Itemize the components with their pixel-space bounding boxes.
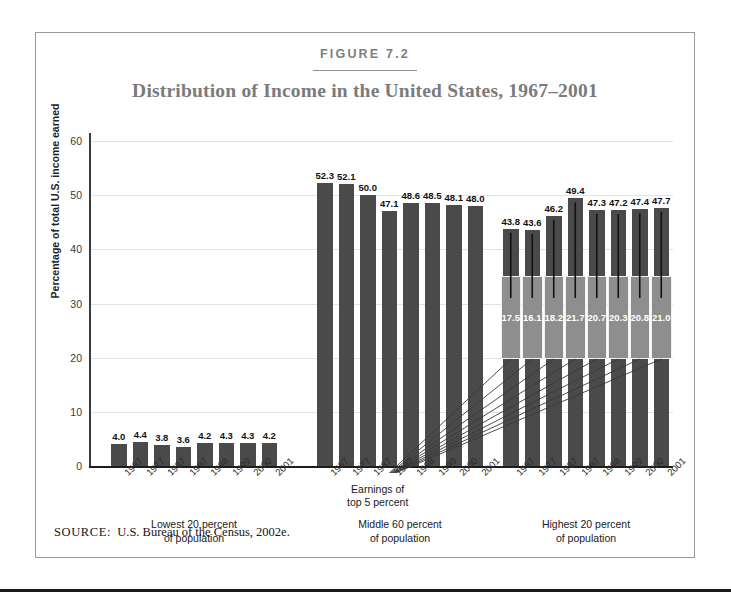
bar[interactable]: 48.0: [468, 206, 484, 466]
bar[interactable]: 48.1: [446, 205, 462, 466]
y-tick-60: 60: [70, 135, 82, 147]
y-tick-50: 50: [70, 189, 82, 201]
callout-line-2: top 5 percent: [347, 496, 408, 508]
chart-plot-area: 0102030405060 4.04.43.83.64.24.34.34.252…: [89, 133, 673, 473]
y-tick-20: 20: [70, 352, 82, 364]
y-axis-label: Percentage of total U.S. income earned: [49, 104, 61, 299]
top-five-percent-value: 20.8: [631, 312, 650, 323]
bar-value-label: 3.6: [177, 434, 190, 445]
gridline-60: [91, 141, 673, 142]
bar-value-label: 52.1: [337, 171, 356, 182]
bar-value-label: 4.2: [198, 430, 211, 441]
figure-title: Distribution of Income in the United Sta…: [36, 80, 694, 102]
figure-divider-rule: [313, 70, 417, 71]
y-axis-line: [89, 133, 91, 467]
top-five-percent-box[interactable]: 21.0: [651, 276, 672, 359]
bar-value-label: 48.6: [402, 190, 421, 201]
bar-value-label: 47.4: [631, 196, 650, 207]
top-five-percent-callout: Earnings of top 5 percent: [340, 480, 415, 512]
top-five-percent-box[interactable]: 16.1: [522, 276, 543, 359]
bar-value-label: 47.2: [609, 197, 628, 208]
top-five-percent-value: 16.1: [523, 312, 542, 323]
bar-value-label: 46.2: [545, 203, 564, 214]
callout-line-1: Earnings of: [351, 483, 404, 495]
bar-value-label: 4.4: [134, 429, 147, 440]
bar[interactable]: 50.0: [360, 195, 376, 466]
bar-value-label: 43.8: [502, 216, 521, 227]
top-five-percent-value: 20.3: [609, 312, 628, 323]
top-five-percent-box[interactable]: 18.2: [544, 276, 565, 359]
gridline-50: [91, 195, 673, 196]
source-note: SOURCE: U.S. Bureau of the Census, 2002e…: [54, 525, 290, 540]
top-five-percent-box[interactable]: 21.7: [565, 276, 586, 359]
top-five-percent-value: 21.0: [652, 312, 671, 323]
bar[interactable]: 48.5: [425, 203, 441, 466]
bar-value-label: 48.0: [466, 193, 485, 204]
top-five-percent-box[interactable]: 20.3: [608, 276, 629, 359]
y-tick-40: 40: [70, 243, 82, 255]
y-tick-0: 0: [76, 460, 82, 472]
group-label: Highest 20 percentof population: [542, 518, 630, 545]
bar-value-label: 47.1: [380, 198, 399, 209]
bar[interactable]: 47.1: [382, 211, 398, 466]
bar[interactable]: 52.1: [339, 184, 355, 466]
top-five-percent-value: 21.7: [566, 312, 585, 323]
figure-frame: FIGURE 7.2 Distribution of Income in the…: [35, 32, 695, 558]
bar-value-label: 49.4: [566, 185, 585, 196]
group-label-line-2: of population: [370, 532, 430, 544]
bar-value-label: 4.2: [263, 430, 276, 441]
y-tick-10: 10: [70, 406, 82, 418]
group-label-line-1: Highest 20 percent: [542, 518, 630, 530]
top-five-percent-box[interactable]: 20.8: [630, 276, 651, 359]
bar-value-label: 47.3: [588, 197, 607, 208]
figure-number: FIGURE 7.2: [36, 47, 694, 61]
page-bottom-rule: [0, 589, 731, 592]
top-five-percent-value: 20.7: [588, 312, 607, 323]
y-tick-30: 30: [70, 298, 82, 310]
bar[interactable]: 48.6: [403, 203, 419, 466]
group-label-line-2: of population: [556, 532, 616, 544]
top-five-percent-value: 18.2: [545, 312, 564, 323]
bar-value-label: 43.6: [523, 217, 542, 228]
source-label: SOURCE:: [54, 525, 111, 539]
bar-value-label: 3.8: [155, 432, 168, 443]
bar-value-label: 48.5: [423, 190, 442, 201]
bar-value-label: 50.0: [359, 182, 378, 193]
group-label: Middle 60 percentof population: [358, 518, 441, 545]
leader-line-down: [384, 359, 618, 473]
top-five-percent-value: 17.5: [502, 312, 521, 323]
bar-value-label: 47.7: [652, 195, 671, 206]
bar-value-label: 4.3: [241, 430, 254, 441]
top-five-percent-box[interactable]: 20.7: [587, 276, 608, 359]
bar[interactable]: 52.3: [317, 183, 333, 466]
bar-value-label: 4.0: [112, 431, 125, 442]
bar-value-label: 52.3: [316, 170, 335, 181]
source-text: U.S. Bureau of the Census, 2002e.: [117, 525, 290, 539]
bar-value-label: 4.3: [220, 430, 233, 441]
top-five-percent-box[interactable]: 17.5: [501, 276, 522, 359]
bar[interactable]: 4.0: [111, 444, 127, 466]
bar-value-label: 48.1: [445, 192, 464, 203]
group-label-line-1: Middle 60 percent: [358, 518, 441, 530]
